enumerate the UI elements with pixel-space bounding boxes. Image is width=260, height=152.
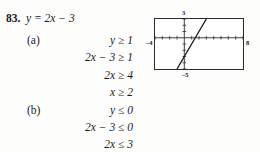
step-a-4: x ≥ 2 (110, 85, 133, 99)
part-b-label: (b) (27, 103, 40, 117)
problem-equation: y = 2x − 3 (26, 11, 75, 25)
line-y-equals-2x-minus-3 (177, 19, 206, 69)
step-a-1: y ≥ 1 (110, 33, 133, 47)
step-a-2: 2x − 3 ≥ 1 (85, 50, 133, 64)
step-a-3: 2x ≥ 4 (104, 68, 133, 82)
viewing-window (154, 18, 244, 70)
part-a-label: (a) (27, 33, 40, 47)
step-b-2: 2x − 3 ≤ 0 (85, 120, 133, 134)
window-xmin-label: –4 (146, 39, 153, 46)
problem-block: 83. y = 2x − 3 (a) y ≥ 1 2x − 3 ≥ 1 2x ≥… (0, 0, 145, 152)
step-b-1: y ≤ 0 (110, 103, 133, 117)
window-xmax-label: 8 (246, 39, 249, 46)
problem-number: 83. (6, 11, 20, 25)
graph-plot (155, 19, 243, 69)
textbook-page: 83. y = 2x − 3 (a) y ≥ 1 2x − 3 ≥ 1 2x ≥… (0, 0, 260, 152)
window-ymin-label: –5 (182, 71, 189, 78)
graph-figure: 3 –5 –4 8 (146, 0, 260, 152)
window-ymax-label: 3 (182, 9, 185, 16)
step-b-3: 2x ≤ 3 (104, 137, 133, 151)
